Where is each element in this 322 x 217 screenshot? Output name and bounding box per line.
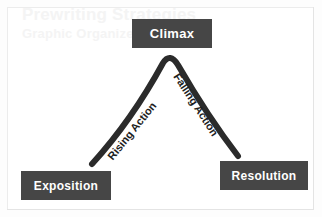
stage-box-exposition[interactable]: Exposition: [21, 171, 111, 200]
stage-label-climax: Climax: [150, 27, 194, 40]
stage-box-resolution[interactable]: Resolution: [220, 161, 308, 190]
stage-label-exposition: Exposition: [34, 180, 98, 192]
stage-label-resolution: Resolution: [232, 170, 297, 182]
stage-box-climax[interactable]: Climax: [132, 19, 212, 48]
plot-diagram-screenshot: Prewriting Strategies Graphic Organizers…: [0, 0, 322, 217]
